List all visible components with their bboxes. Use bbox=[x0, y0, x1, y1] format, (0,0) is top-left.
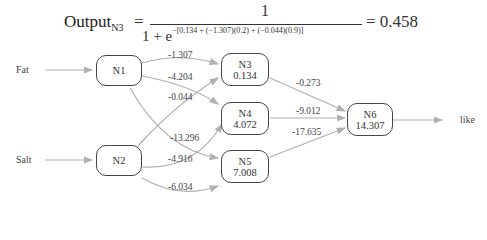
weight-n2-n3: -0.044 bbox=[168, 92, 193, 102]
node-n4: N4 4.072 bbox=[221, 102, 269, 135]
node-n1: N1 bbox=[96, 55, 142, 86]
node-n3: N3 0.134 bbox=[221, 53, 269, 86]
weight-n1-n4: -4.204 bbox=[168, 72, 193, 82]
input-fat-label: Fat bbox=[16, 64, 29, 75]
weight-n4-n6: -9.012 bbox=[296, 106, 321, 116]
node-n6: N6 14.307 bbox=[347, 103, 393, 136]
weight-n5-n6: -17.635 bbox=[292, 127, 321, 137]
weight-n1-n5: -13.296 bbox=[170, 133, 199, 143]
weight-n1-n3: -1.307 bbox=[168, 50, 193, 60]
node-n5: N5 7.008 bbox=[221, 150, 269, 183]
input-salt-label: Salt bbox=[16, 154, 32, 165]
output-like-label: like bbox=[460, 114, 475, 125]
weight-n2-n5: -6.034 bbox=[168, 182, 193, 192]
weight-n3-n6: -0.273 bbox=[296, 78, 321, 88]
weight-n2-n4: -4.916 bbox=[168, 154, 193, 164]
node-n2: N2 bbox=[96, 145, 142, 176]
